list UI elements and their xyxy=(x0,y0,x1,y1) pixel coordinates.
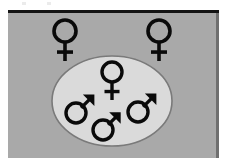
figure-canvas xyxy=(0,0,226,167)
panel-top-border xyxy=(8,10,219,13)
figure-container xyxy=(0,0,226,167)
panel-right-edge xyxy=(216,13,219,158)
